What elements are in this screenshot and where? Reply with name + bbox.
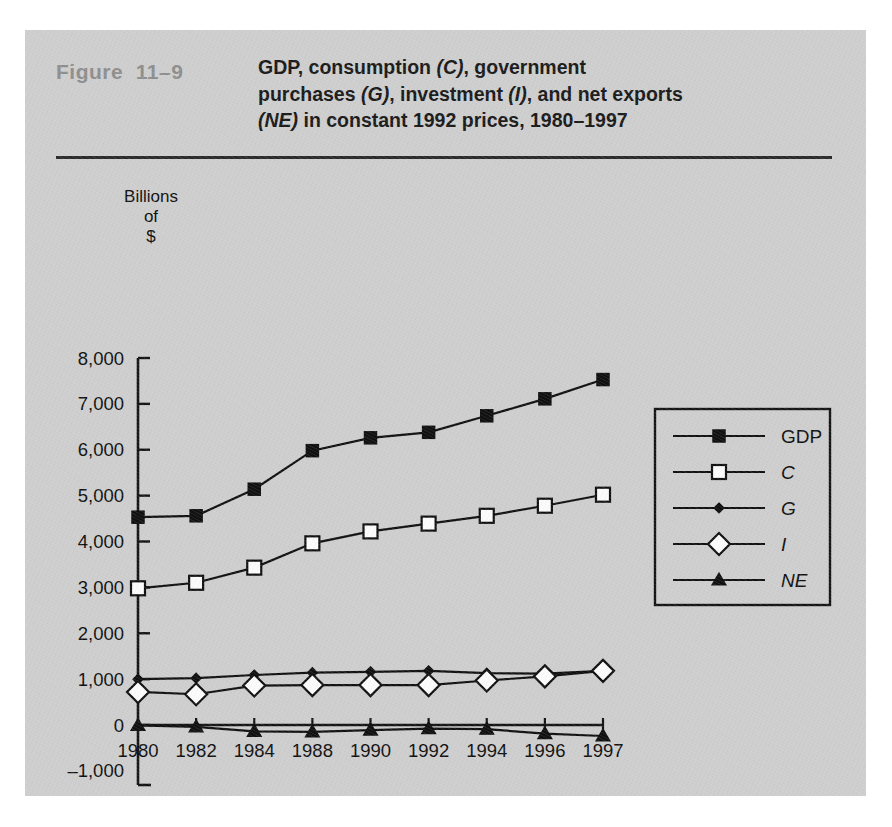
title-text-1: GDP, consumption bbox=[258, 56, 436, 78]
x-axis-tick-labels: 198019821984198819901992199419961997 bbox=[117, 740, 623, 761]
data-point-marker bbox=[185, 683, 207, 705]
plot-area: Billions of $ 8,0007,0006,0005,0004,0003… bbox=[25, 159, 866, 796]
data-point-marker bbox=[712, 465, 726, 479]
y-axis-tick-labels: 8,0007,0006,0005,0004,0003,0002,0001,000… bbox=[67, 348, 124, 782]
data-point-marker bbox=[538, 499, 552, 513]
figure-screenshot: Figure 11–9 GDP, consumption (C), govern… bbox=[0, 0, 892, 827]
y-tick-label: 3,000 bbox=[78, 577, 124, 598]
data-point-marker bbox=[534, 665, 556, 687]
series-C bbox=[131, 488, 610, 596]
y-tick-label: 7,000 bbox=[78, 393, 124, 414]
data-point-marker bbox=[190, 510, 202, 522]
series-line bbox=[138, 495, 603, 589]
data-point-marker bbox=[539, 393, 551, 405]
y-tick-label: 8,000 bbox=[78, 348, 124, 369]
legend-entries: GDPCGINE bbox=[673, 426, 822, 591]
title-text-4: , and net exports bbox=[527, 83, 683, 105]
legend-label: I bbox=[781, 534, 787, 555]
title-symbol-g: (G) bbox=[361, 83, 389, 105]
legend-entry-I: I bbox=[673, 533, 787, 555]
y-tick-label: –1,000 bbox=[67, 760, 124, 781]
x-tick-label: 1996 bbox=[524, 740, 565, 761]
data-point-marker bbox=[306, 445, 318, 457]
data-point-marker bbox=[481, 410, 493, 422]
title-symbol-i: (I) bbox=[508, 83, 526, 105]
y-tick-label: 0 bbox=[114, 715, 124, 736]
data-point-marker bbox=[708, 533, 730, 555]
data-point-marker bbox=[305, 536, 319, 550]
x-tick-label: 1994 bbox=[466, 740, 507, 761]
y-tick-label: 1,000 bbox=[78, 669, 124, 690]
data-point-marker bbox=[365, 432, 377, 444]
x-tick-label: 1992 bbox=[408, 740, 449, 761]
legend-entry-G: G bbox=[673, 498, 796, 519]
legend-entry-C: C bbox=[673, 462, 795, 483]
legend-entry-NE: NE bbox=[673, 570, 808, 591]
title-symbol-ne: (NE) bbox=[258, 109, 298, 131]
series-line bbox=[138, 380, 603, 518]
title-symbol-c: (C) bbox=[436, 56, 463, 78]
data-point-marker bbox=[597, 374, 609, 386]
data-point-marker bbox=[132, 511, 144, 523]
data-point-marker bbox=[418, 674, 440, 696]
data-point-marker bbox=[423, 426, 435, 438]
data-point-marker bbox=[364, 524, 378, 538]
title-text-3: , investment bbox=[389, 83, 508, 105]
data-point-marker bbox=[248, 483, 260, 495]
figure-header: Figure 11–9 GDP, consumption (C), govern… bbox=[25, 30, 866, 156]
x-tick-label: 1997 bbox=[582, 740, 623, 761]
legend-label: NE bbox=[781, 570, 808, 591]
data-point-marker bbox=[596, 488, 610, 502]
y-tick-label: 2,000 bbox=[78, 623, 124, 644]
data-point-marker bbox=[127, 681, 149, 703]
data-point-marker bbox=[592, 660, 614, 682]
y-tick-label: 4,000 bbox=[78, 531, 124, 552]
data-point-marker bbox=[714, 503, 724, 513]
data-point-marker bbox=[189, 576, 203, 590]
line-chart: 8,0007,0006,0005,0004,0003,0002,0001,000… bbox=[25, 159, 866, 796]
figure-number-label: Figure 11–9 bbox=[56, 60, 183, 84]
x-tick-label: 1982 bbox=[176, 740, 217, 761]
data-point-marker bbox=[480, 509, 494, 523]
legend-entry-GDP: GDP bbox=[673, 426, 822, 447]
data-point-marker bbox=[131, 581, 145, 595]
data-point-marker bbox=[247, 561, 261, 575]
x-tick-label: 1980 bbox=[117, 740, 158, 761]
x-tick-label: 1988 bbox=[292, 740, 333, 761]
x-tick-label: 1984 bbox=[234, 740, 275, 761]
figure-panel: Figure 11–9 GDP, consumption (C), govern… bbox=[25, 30, 866, 796]
legend-label: GDP bbox=[781, 426, 822, 447]
title-text-6: constant 1992 prices, 1980–1997 bbox=[326, 109, 627, 131]
title-text-5: in bbox=[298, 109, 321, 131]
data-point-marker bbox=[243, 675, 265, 697]
figure-title: GDP, consumption (C), government purchas… bbox=[258, 54, 688, 134]
y-tick-label: 6,000 bbox=[78, 439, 124, 460]
data-point-marker bbox=[301, 674, 323, 696]
legend-label: C bbox=[781, 462, 795, 483]
y-tick-label: 5,000 bbox=[78, 485, 124, 506]
data-point-marker bbox=[360, 674, 382, 696]
series-layer bbox=[127, 374, 614, 741]
x-tick-label: 1990 bbox=[350, 740, 391, 761]
data-point-marker bbox=[191, 673, 201, 683]
legend-label: G bbox=[781, 498, 796, 519]
data-point-marker bbox=[422, 517, 436, 531]
data-point-marker bbox=[713, 430, 725, 442]
y-axis-ticks bbox=[138, 358, 150, 725]
